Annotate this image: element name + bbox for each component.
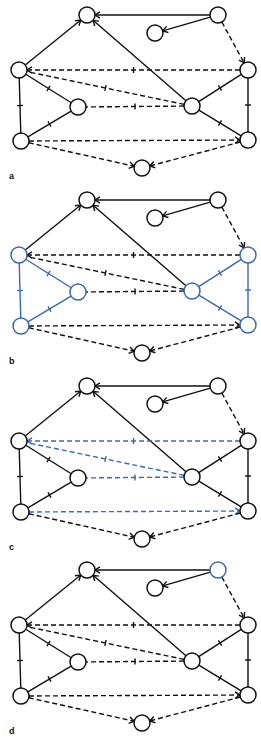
- node-bottom-left: [13, 688, 29, 704]
- edge-right-to-bottom_right: [245, 263, 251, 317]
- edge-line: [29, 511, 240, 512]
- edge-top_right-to-top: [95, 197, 210, 203]
- edge-top_right-to-small: [163, 202, 211, 217]
- edge-top_right-to-small: [163, 388, 211, 403]
- edge-top_right-to-right: [222, 207, 245, 248]
- edge-left-to-bottom_left: [17, 263, 23, 318]
- edge-line: [150, 513, 241, 537]
- edge-left-to-inner_left: [26, 629, 71, 657]
- node-inner-right: [184, 98, 200, 114]
- node-top: [79, 7, 95, 23]
- edge-bottom_left-to-bottom_center: [29, 328, 134, 354]
- network-motif-figure: abcd: [0, 0, 261, 742]
- edge-top_right-to-right: [222, 393, 245, 434]
- node-bottom-left: [13, 133, 29, 149]
- edge-top_right-to-top: [95, 383, 210, 389]
- inhibition-bar-icon: [105, 456, 106, 462]
- edge-bottom_left-to-bottom_right: [29, 692, 240, 698]
- edge-right-to-left: [27, 438, 240, 444]
- edge-inner_right-to-right: [199, 445, 242, 472]
- edge-line: [150, 697, 241, 721]
- edge-line: [25, 205, 81, 250]
- edge-left-to-bottom_left: [17, 449, 23, 504]
- node-small: [147, 210, 163, 226]
- edge-left-to-inner_left: [26, 445, 71, 473]
- node-bottom-right: [240, 503, 256, 519]
- node-top: [79, 562, 95, 578]
- edge-top_right-to-top: [95, 12, 210, 18]
- node-bottom-center: [134, 715, 150, 731]
- edge-bottom_right-to-bottom_center: [150, 142, 241, 168]
- node-top-right: [210, 7, 226, 23]
- edge-left-to-bottom_left: [17, 633, 23, 688]
- node-inner-left: [70, 99, 86, 115]
- edge-line: [25, 391, 81, 436]
- node-left: [11, 433, 27, 449]
- node-right: [240, 247, 256, 263]
- edge-bottom_left-to-bottom_right: [29, 137, 240, 143]
- edge-inner_right-to-bottom_right: [199, 481, 241, 507]
- node-bottom-right: [240, 687, 256, 703]
- edge-line: [163, 388, 211, 402]
- node-inner-right: [184, 283, 200, 299]
- edge-line: [25, 575, 81, 620]
- edge-inner_right-to-bottom_right: [199, 665, 241, 691]
- edge-line: [93, 575, 186, 656]
- edge-left-to-top: [25, 20, 81, 65]
- node-left: [11, 617, 27, 633]
- edge-line: [163, 17, 211, 31]
- edge-inner_left-to-bottom_left: [28, 482, 71, 508]
- panel-label: b: [9, 356, 15, 366]
- node-small: [147, 25, 163, 41]
- panel-label: d: [9, 726, 15, 736]
- node-right: [240, 433, 256, 449]
- edge-inner_right-to-inner_left: [86, 475, 184, 481]
- edge-top_right-to-small: [163, 572, 211, 587]
- edge-inner_left-to-bottom_left: [28, 296, 71, 322]
- edge-bottom_left-to-bottom_center: [29, 143, 134, 169]
- node-left: [11, 247, 27, 263]
- edge-inner_right-to-bottom_right: [199, 110, 241, 136]
- panel-label: c: [9, 542, 14, 552]
- edge-inner_right-to-inner_left: [86, 289, 184, 295]
- node-bottom-left: [13, 318, 29, 334]
- edge-inner_left-to-bottom_left: [28, 666, 71, 692]
- edge-top_right-to-right: [222, 577, 245, 618]
- edge-line: [150, 142, 241, 166]
- edge-bottom_left-to-bottom_right: [29, 322, 240, 328]
- node-inner-left: [70, 654, 86, 670]
- edge-line: [29, 514, 134, 538]
- edge-left-to-top: [25, 575, 81, 620]
- inhibition-bar-icon: [105, 85, 106, 91]
- edge-inner_right-to-top: [93, 20, 186, 101]
- edge-inner_right-to-left: [27, 627, 184, 660]
- node-bottom-center: [134, 345, 150, 361]
- node-inner-right: [184, 653, 200, 669]
- node-small: [147, 396, 163, 412]
- edge-line: [222, 207, 244, 248]
- edge-bottom_right-to-bottom_center: [150, 697, 241, 723]
- edge-inner_right-to-right: [199, 629, 242, 656]
- edge-top_right-to-top: [95, 567, 210, 573]
- panel-c: c: [9, 378, 256, 552]
- edge-left-to-inner_left: [26, 259, 71, 287]
- node-small: [147, 580, 163, 596]
- edge-inner_right-to-inner_left: [86, 104, 184, 110]
- edge-bottom_left-to-bottom_center: [29, 514, 134, 540]
- edge-line: [29, 695, 240, 696]
- edge-left-to-bottom_left: [17, 78, 23, 133]
- edge-line: [93, 205, 186, 286]
- edge-left-to-top: [25, 205, 81, 250]
- edge-inner_right-to-top: [93, 205, 186, 286]
- edge-line: [222, 393, 244, 434]
- edge-inner_right-to-bottom_right: [199, 295, 241, 321]
- node-top: [79, 192, 95, 208]
- node-bottom-center: [134, 160, 150, 176]
- inhibition-bar-icon: [105, 270, 106, 276]
- edge-inner_right-to-left: [27, 443, 184, 476]
- edge-line: [29, 698, 134, 722]
- edge-left-to-inner_left: [26, 74, 71, 102]
- panel-label: a: [9, 171, 15, 181]
- edge-inner_right-to-top: [93, 391, 186, 472]
- node-left: [11, 62, 27, 78]
